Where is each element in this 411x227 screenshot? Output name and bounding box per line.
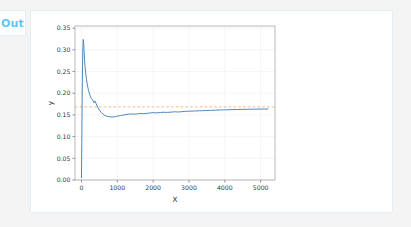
x-tick-label: 2000 bbox=[145, 184, 161, 191]
y-tick-label: 0.30 bbox=[57, 46, 71, 53]
x-tick-label: 0 bbox=[79, 184, 83, 191]
y-tick-label: 0.20 bbox=[57, 89, 71, 96]
x-tick-label: 3000 bbox=[181, 184, 197, 191]
y-tick-label: 0.35 bbox=[57, 24, 71, 31]
y-tick-label: 0.15 bbox=[57, 111, 71, 118]
x-tick-label: 5000 bbox=[253, 184, 269, 191]
data-series bbox=[81, 39, 267, 177]
grid-lines bbox=[75, 26, 275, 180]
y-tick-label: 0.10 bbox=[57, 133, 71, 140]
out-prompt-label: Out bbox=[1, 17, 24, 30]
matplotlib-figure: 0100020003000400050000.000.050.100.150.2… bbox=[33, 13, 333, 211]
y-tick-label: 0.05 bbox=[57, 155, 71, 162]
y-tick-label: 0.25 bbox=[57, 68, 71, 75]
screenshot-root: Out 0100020003000400050000.000.050.100.1… bbox=[0, 0, 411, 227]
series-line-y bbox=[81, 39, 267, 177]
y-tick-label: 0.00 bbox=[57, 176, 71, 183]
x-axis-title: X bbox=[173, 195, 178, 204]
notebook-out-prompt: Out bbox=[0, 10, 26, 36]
plot-frame bbox=[75, 26, 275, 180]
y-axis-title: y bbox=[46, 100, 55, 105]
x-tick-label: 4000 bbox=[217, 184, 233, 191]
axis-ticks: 0100020003000400050000.000.050.100.150.2… bbox=[57, 24, 269, 191]
notebook-output-area: 0100020003000400050000.000.050.100.150.2… bbox=[30, 10, 393, 213]
x-tick-label: 1000 bbox=[109, 184, 125, 191]
line-chart: 0100020003000400050000.000.050.100.150.2… bbox=[33, 13, 333, 211]
axes-frame bbox=[75, 26, 275, 180]
